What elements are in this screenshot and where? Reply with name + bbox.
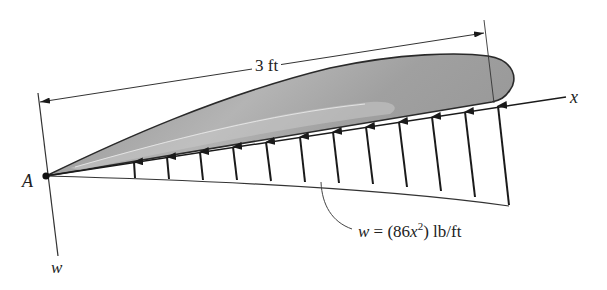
airfoil-load-diagram: 3 ft A x w w = (86x2) lb/ft	[0, 0, 607, 290]
x-axis-label: x	[570, 88, 578, 106]
dimension-label: 3 ft	[252, 57, 281, 74]
load-equation-unit: ) lb/ft	[423, 222, 461, 241]
load-equation-eq: = (86	[369, 222, 410, 241]
point-a-label: A	[22, 172, 33, 190]
load-equation-var: w	[358, 222, 369, 241]
point-a-marker	[42, 172, 49, 179]
load-equation-x: x	[410, 222, 418, 241]
load-equation: w = (86x2) lb/ft	[358, 223, 461, 240]
w-axis-label: w	[51, 259, 62, 276]
diagram-canvas	[0, 0, 607, 290]
